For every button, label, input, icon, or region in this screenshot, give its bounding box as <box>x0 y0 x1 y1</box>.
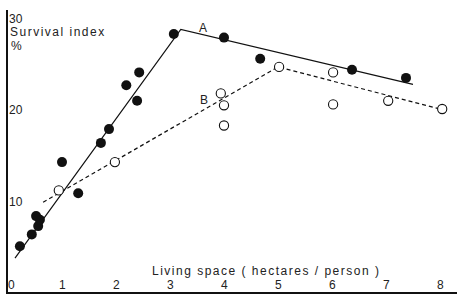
y-tick-label: 20 <box>9 103 23 117</box>
x-tick-label: 5 <box>275 278 282 292</box>
y-tick-label: 30 <box>9 12 23 26</box>
open-circle-point <box>329 100 338 109</box>
filled-circle-point <box>132 96 142 106</box>
filled-circle-point <box>347 65 357 75</box>
filled-circle-point <box>31 211 41 221</box>
filled-circle-point <box>121 80 131 90</box>
open-circle-point <box>329 68 338 77</box>
y-tick-label: 10 <box>9 195 23 209</box>
series-label-a: A <box>199 21 207 35</box>
filled-circle-point <box>219 33 229 43</box>
open-circle-point <box>216 89 225 98</box>
filled-circle-point <box>104 124 114 134</box>
x-tick-label: 0 <box>8 278 15 292</box>
fit-line-a <box>15 29 413 258</box>
filled-circle-point <box>401 73 411 83</box>
filled-circle-point <box>134 67 144 77</box>
open-circle-point <box>219 121 228 130</box>
open-circle-point <box>54 186 63 195</box>
open-circle-point <box>219 101 228 110</box>
y-axis-title: Survival index <box>10 25 106 39</box>
open-circle-point <box>438 104 447 113</box>
x-tick-label: 2 <box>113 278 120 292</box>
filled-circle-point <box>255 54 265 64</box>
fit-line-b <box>43 67 440 202</box>
y-axis-unit: % <box>11 39 23 53</box>
x-tick-label: 8 <box>437 278 444 292</box>
filled-circle-point <box>73 188 83 198</box>
x-tick-label: 4 <box>221 278 228 292</box>
x-tick-label: 1 <box>59 278 66 292</box>
survival-chart: 102030 012345678 Survival index % Living… <box>0 0 461 301</box>
x-axis-title: Living space ( hectares / person ) <box>152 264 380 278</box>
filled-circle-point <box>169 29 179 39</box>
x-tick-labels: 012345678 <box>8 278 444 292</box>
fit-lines <box>15 29 440 258</box>
x-tick-label: 6 <box>329 278 336 292</box>
open-circle-point <box>275 62 284 71</box>
filled-circle-point <box>27 229 37 239</box>
open-circle-point <box>384 96 393 105</box>
filled-circle-point <box>15 241 25 251</box>
filled-circle-point <box>57 157 67 167</box>
x-tick-label: 7 <box>383 278 390 292</box>
x-tick-label: 3 <box>167 278 174 292</box>
series-label-b: B <box>200 93 208 107</box>
data-points <box>15 29 447 251</box>
open-circle-point <box>110 158 119 167</box>
filled-circle-point <box>96 138 106 148</box>
